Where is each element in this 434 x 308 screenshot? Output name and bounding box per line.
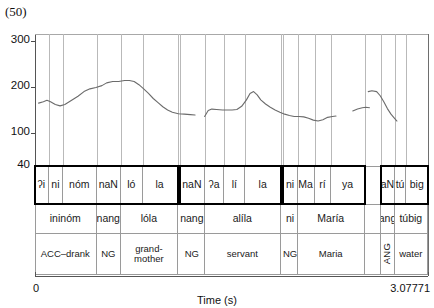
gloss-tier-cell[interactable]: grand-mother (121, 233, 178, 274)
x-axis-max-label: 3.07771 (390, 282, 430, 294)
word-tier-cell[interactable]: nang (180, 204, 204, 233)
syllable-tier-cell[interactable]: ʔa (205, 166, 225, 204)
syllable-tier-cell[interactable]: tú (395, 166, 407, 204)
syllable-tier-cell[interactable]: lí (224, 166, 245, 204)
syllable-tier-cell-label: ʔa (208, 179, 219, 190)
syllable-tier-cell-label: ni (286, 179, 294, 190)
pitch-contour-path (205, 92, 336, 121)
syllable-tier-cell-label: la (156, 179, 164, 190)
syllable-tier-cell-label: Ma (298, 179, 313, 190)
syllable-tier-cell[interactable]: rí (315, 166, 332, 204)
word-tier-cell[interactable]: lóla (121, 204, 178, 233)
syllable-tier-cell-label: naN (99, 179, 118, 190)
word-tier-cell-label: María (317, 213, 344, 224)
syllable-tier-cell-label: ni (51, 179, 59, 190)
word-tier-cell-label: ni (286, 213, 294, 224)
gloss-tier-cell-label: ANG (382, 243, 392, 264)
syllable-tier-cell[interactable]: naN (97, 166, 121, 204)
word-tier-cell-label: nang (97, 213, 120, 224)
pitch-contour-path (368, 91, 397, 121)
syllable-tier-cell-label: la (259, 179, 267, 190)
syllable-tier-cell[interactable]: ʔi (35, 166, 49, 204)
syllable-tier-cell[interactable]: nóm (63, 166, 96, 204)
word-tier-cell[interactable]: María (298, 204, 365, 233)
syllable-tier-cell[interactable]: ya (331, 166, 364, 204)
gloss-tier-cell-label: Maria (319, 249, 343, 259)
gloss-tier-cell-label: NG (101, 249, 115, 259)
tier-left-border (35, 166, 36, 274)
word-tier-cell[interactable]: ni (283, 204, 297, 233)
word-tier-cell[interactable]: alíla (205, 204, 281, 233)
gloss-tier-cell[interactable] (365, 233, 382, 274)
x-axis-min-tick (35, 272, 36, 276)
word-tier-cell[interactable]: ang (381, 204, 394, 233)
syllable-tier-cell[interactable]: ni (283, 166, 297, 204)
syllable-tier-cell[interactable] (365, 166, 382, 204)
gloss-tier-cell-label: NG (283, 249, 297, 259)
word-tier-cell[interactable]: ininóm (35, 204, 97, 233)
gloss-tier-cell[interactable]: water (395, 233, 428, 274)
gloss-tier-cell[interactable]: NG (283, 233, 297, 274)
x-axis-line (35, 276, 428, 277)
word-tier-cell-label: lóla (141, 213, 157, 224)
syllable-tier-cell[interactable]: aN (381, 166, 394, 204)
gloss-tier-cell-label: water (399, 249, 422, 259)
word-tier-cell-label: túbig (399, 213, 422, 224)
syllable-tier-cell-label: naN (182, 179, 201, 190)
pitch-contour-figure: (50) 30020010040 ʔininómnaNlólanaNʔalíla… (0, 0, 434, 308)
word-tier-cell[interactable]: nang (97, 204, 121, 233)
syllable-tier-cell-label: rí (319, 179, 325, 190)
syllable-tier-cell-label: ʔi (38, 179, 46, 190)
syllable-tier-cell-label: big (410, 179, 424, 190)
gloss-tier-cell-label: ACC–drank (41, 249, 90, 259)
word-tier-cell[interactable] (365, 204, 382, 233)
syllable-tier-cell-label: tú (396, 179, 405, 190)
syllable-tier-cell[interactable]: big (406, 166, 428, 204)
x-axis-min-label: 0 (33, 282, 39, 294)
syllable-tier-cell-label: nóm (69, 179, 89, 190)
gloss-tier-cell[interactable]: servant (205, 233, 281, 274)
word-tier-cell-label: alíla (233, 213, 252, 224)
word-tier-cell-label: ang (381, 213, 394, 224)
syllable-tier-top-border (35, 166, 428, 167)
syllable-tier-cell[interactable]: ló (121, 166, 143, 204)
syllable-tier-cell-label: ya (342, 179, 353, 190)
gloss-tier-cell-label: grand-mother (121, 244, 177, 264)
syllable-tier-cell[interactable]: la (245, 166, 281, 204)
pitch-contour-path (353, 107, 370, 111)
syllable-tier-cell-label: ló (127, 179, 135, 190)
word-tier-cell-label: nang (180, 213, 203, 224)
gloss-tier-cell-label: NG (185, 249, 199, 259)
gloss-tier-top-border (35, 233, 428, 234)
word-tier-cell[interactable]: túbig (395, 204, 428, 233)
gloss-tier-cell-label: servant (227, 249, 258, 259)
syllable-tier-cell[interactable]: la (143, 166, 178, 204)
gloss-tier-cell[interactable]: NG (97, 233, 121, 274)
syllable-tier-cell-label: aN (381, 179, 394, 190)
word-tier-top-border (35, 204, 428, 205)
syllable-tier-cell[interactable]: Ma (298, 166, 315, 204)
x-axis-max-tick (428, 272, 429, 276)
syllable-tier-cell[interactable]: ni (49, 166, 63, 204)
syllable-tier-cell[interactable]: naN (180, 166, 204, 204)
gloss-tier-bottom-border (35, 274, 428, 275)
x-axis-title: Time (s) (0, 294, 434, 306)
syllable-tier-cell-label: lí (232, 179, 237, 190)
gloss-tier-cell[interactable]: Maria (298, 233, 365, 274)
word-tier-cell-label: ininóm (50, 213, 81, 224)
gloss-tier-cell[interactable]: ACC–drank (35, 233, 97, 274)
gloss-tier-cell[interactable]: ANG (381, 233, 394, 274)
gloss-tier-cell[interactable]: NG (180, 233, 204, 274)
pitch-contour-path (39, 81, 195, 116)
